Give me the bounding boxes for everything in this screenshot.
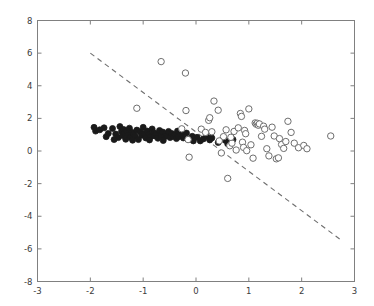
data-point	[211, 98, 217, 104]
y-tick-label: -6	[24, 244, 32, 254]
data-point	[183, 107, 189, 113]
data-point	[285, 118, 291, 124]
data-point	[182, 70, 188, 76]
data-point	[283, 138, 289, 144]
data-point	[158, 58, 164, 64]
data-point	[130, 137, 136, 143]
y-tick-label: -8	[24, 277, 32, 287]
data-point	[266, 153, 272, 159]
data-point	[228, 134, 234, 140]
data-point	[218, 150, 224, 156]
y-tick-label: 0	[27, 146, 32, 156]
x-tick-label: 0	[193, 286, 198, 296]
y-tick-label: 6	[27, 48, 32, 58]
x-tick-label: -2	[86, 286, 94, 296]
data-point	[250, 155, 256, 161]
data-point	[304, 146, 310, 152]
data-point	[147, 137, 153, 143]
y-tick-label: 8	[27, 16, 32, 26]
data-point	[223, 127, 229, 133]
data-point	[248, 142, 254, 148]
data-point	[229, 140, 235, 146]
data-point	[110, 125, 116, 131]
figure-canvas: -3-2-10123 -8-6-4-202468	[0, 0, 374, 306]
data-point	[269, 124, 275, 130]
data-point	[244, 147, 250, 153]
data-point	[276, 135, 282, 141]
data-point	[111, 137, 117, 143]
data-point	[160, 138, 166, 144]
data-point	[185, 136, 191, 142]
data-point	[275, 155, 281, 161]
data-point	[288, 129, 294, 135]
data-point	[235, 125, 241, 131]
data-point	[101, 125, 107, 131]
data-point	[209, 129, 215, 135]
data-point	[207, 115, 213, 121]
data-point	[328, 133, 334, 139]
x-tick-label: 1	[246, 286, 251, 296]
data-point	[281, 145, 287, 151]
data-point	[258, 133, 264, 139]
data-point	[179, 126, 185, 132]
y-tick-label: 4	[27, 81, 32, 91]
data-point	[242, 131, 248, 137]
x-tick-label: -3	[33, 286, 41, 296]
data-point	[233, 147, 239, 153]
data-point	[202, 129, 208, 135]
y-tick-label: 2	[27, 113, 32, 123]
x-tick-label: 2	[299, 286, 304, 296]
data-point	[246, 106, 252, 112]
data-point	[209, 135, 215, 141]
x-tick-label: 3	[352, 286, 357, 296]
data-point	[216, 138, 222, 144]
data-point	[215, 107, 221, 113]
data-point	[225, 175, 231, 181]
y-tick-label: -4	[24, 211, 32, 221]
data-point	[238, 113, 244, 119]
data-point	[105, 130, 111, 136]
y-tick-label: -2	[24, 179, 32, 189]
x-tick-label: -1	[139, 286, 147, 296]
scatter-plot: -3-2-10123 -8-6-4-202468	[0, 0, 374, 306]
data-point	[134, 105, 140, 111]
data-point	[186, 154, 192, 160]
data-point	[261, 126, 267, 132]
data-point	[264, 146, 270, 152]
